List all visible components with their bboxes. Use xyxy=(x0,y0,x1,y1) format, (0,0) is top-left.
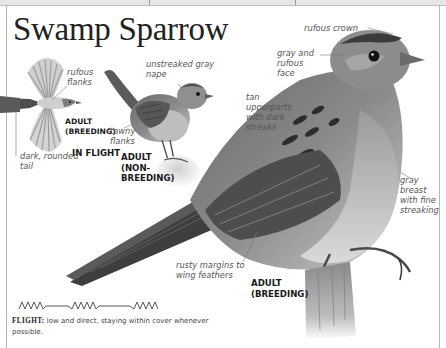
bird-illustrations xyxy=(0,0,446,348)
breeding-bird-illustration xyxy=(66,28,425,340)
label-rufous-flanks: rufous flanks xyxy=(67,67,97,87)
label-unstreaked-gray-nape: unstreaked gray nape xyxy=(146,59,216,79)
caption-breeding-adult: ADULT (BREEDING) xyxy=(251,278,308,299)
flight-description: FLIGHT: low and direct, staying within c… xyxy=(12,316,212,338)
label-gray-breast: gray breast with fine streaking xyxy=(400,175,440,215)
caption-non-breeding-adult: ADULT (NON- BREEDING) xyxy=(121,152,174,184)
label-dark-rounded-tail: dark, rounded tail xyxy=(20,151,80,171)
label-gray-and-rufous-face: gray and rufous face xyxy=(277,48,323,78)
page-title: Swamp Sparrow xyxy=(13,13,228,46)
field-guide-page: Swamp Sparrow rufous flanks ADULT (BREED… xyxy=(0,0,446,348)
zigzag-flight-pattern-icon xyxy=(19,302,158,309)
label-tan-upperparts: tan upperparts with dark streaks xyxy=(246,92,302,132)
caption-age: ADULT xyxy=(65,117,92,126)
caption-in-flight-adult: ADULT (BREEDING) xyxy=(65,117,116,136)
label-rusty-margins: rusty margins to wing feathers xyxy=(176,260,254,280)
caption-age: ADULT xyxy=(121,152,152,162)
flight-label: FLIGHT: xyxy=(12,317,45,325)
label-rufous-crown: rufous crown xyxy=(304,23,358,33)
caption-age: ADULT xyxy=(251,278,282,288)
caption-plumage: BREEDING) xyxy=(121,173,174,183)
caption-plumage: (BREEDING) xyxy=(65,127,116,136)
label-tawny-flanks: tawny flanks xyxy=(110,126,140,146)
label-text: rufous flanks xyxy=(67,67,97,87)
caption-plumage: (NON- xyxy=(121,163,150,173)
caption-plumage: (BREEDING) xyxy=(251,289,308,299)
